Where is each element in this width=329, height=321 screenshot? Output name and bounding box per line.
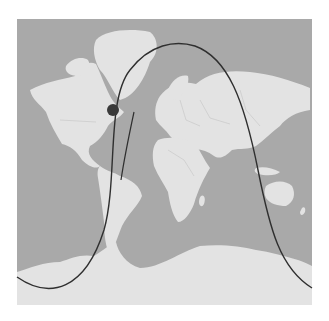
position-marker[interactable] (107, 104, 119, 116)
map-view[interactable] (0, 0, 329, 321)
